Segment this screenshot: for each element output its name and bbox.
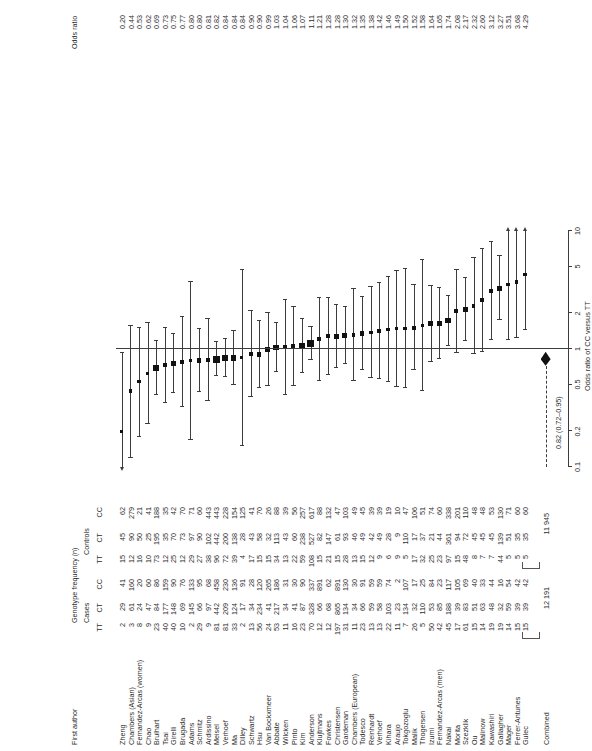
ci-right-cap	[351, 288, 355, 289]
ci-left-cap	[291, 385, 295, 386]
point-estimate-marker	[515, 280, 519, 284]
ci-right-cap	[368, 286, 372, 287]
ci-right-cap	[188, 281, 192, 282]
ci-left-cap	[368, 377, 372, 378]
point-estimate-marker	[129, 389, 132, 392]
total-cases: 12 191	[542, 587, 551, 621]
point-estimate-marker	[317, 337, 321, 341]
ci-left-cap	[334, 367, 338, 368]
ci-left-cap	[480, 351, 484, 352]
x-axis-tick-label: 0.1	[573, 462, 582, 472]
ci-left-cap	[197, 391, 201, 392]
point-estimate-marker	[454, 309, 458, 313]
ci-left-cap	[360, 369, 364, 370]
odds-ratio-value: 4.29	[521, 15, 530, 35]
column-header-cases: Cases	[82, 603, 91, 623]
point-estimate-marker	[222, 355, 228, 361]
ci-right-cap	[120, 352, 124, 353]
ci-right-cap	[197, 328, 201, 329]
point-estimate-marker	[421, 324, 424, 327]
ci-left-cap	[214, 375, 218, 376]
ci-right-arrow	[506, 227, 510, 231]
ci-right-cap	[265, 312, 269, 313]
x-axis-tick-label: 2	[573, 311, 582, 315]
ci-right-cap	[308, 326, 312, 327]
point-estimate-marker	[153, 365, 158, 370]
ci-right-cap	[463, 277, 467, 278]
ci-left-cap	[454, 352, 458, 353]
total-controls: 11 945	[542, 513, 551, 547]
ci-left-cap	[231, 384, 235, 385]
ci-left-cap	[428, 361, 432, 362]
genotype-count: 35	[521, 533, 530, 549]
ci-right-cap	[283, 299, 287, 300]
point-estimate-marker	[231, 355, 236, 360]
ci-left-cap	[188, 439, 192, 440]
point-estimate-marker	[257, 352, 262, 357]
ci-left-cap	[489, 339, 493, 340]
point-estimate-marker	[180, 360, 184, 364]
column-header-cases-tt: TT	[95, 623, 104, 639]
point-estimate-marker	[445, 318, 451, 324]
point-estimate-marker	[206, 358, 210, 362]
ci-left-cap	[300, 372, 304, 373]
ci-left-cap	[317, 380, 321, 381]
ci-left-cap	[240, 445, 244, 446]
point-estimate-marker	[412, 326, 416, 330]
column-header-odds-ratio: Odds ratio	[70, 16, 79, 49]
ci-left-cap	[163, 402, 167, 403]
point-estimate-marker	[377, 329, 381, 333]
x-axis-tick-label: 10	[573, 227, 582, 235]
point-estimate-marker	[197, 358, 202, 363]
x-axis-tick	[568, 230, 572, 231]
point-estimate-marker	[326, 334, 330, 338]
ci-right-cap	[497, 255, 501, 256]
author-label: Gulec	[521, 726, 530, 745]
column-header-author: First author	[70, 709, 79, 745]
ci-left-cap	[326, 374, 330, 375]
ci-left-cap	[446, 345, 450, 346]
x-axis-tick	[568, 384, 572, 385]
ci-left-cap	[411, 369, 415, 370]
ci-right-cap	[317, 297, 321, 298]
column-header-controls: Controls	[82, 528, 91, 555]
genotype-count: 42	[521, 579, 530, 595]
point-estimate-marker	[334, 334, 339, 339]
x-axis-tick-label: 5	[573, 265, 582, 269]
point-estimate-marker	[240, 356, 243, 359]
ci-right-cap	[454, 269, 458, 270]
ci-right-cap	[394, 270, 398, 271]
point-estimate-marker	[369, 331, 373, 335]
ci-right-cap	[205, 318, 209, 319]
x-axis-tick-label: 0.5	[573, 380, 582, 390]
point-estimate-marker	[342, 333, 347, 338]
ci-left-cap	[205, 400, 209, 401]
ci-right-cap	[489, 241, 493, 242]
ci-right-cap	[377, 282, 381, 283]
ci-right-arrow	[523, 227, 527, 231]
ci-right-cap	[274, 322, 278, 323]
point-estimate-marker	[120, 430, 123, 433]
ci-left-cap	[308, 359, 312, 360]
ci-right-cap	[420, 259, 424, 260]
ci-right-cap	[137, 327, 141, 328]
ci-right-cap	[300, 318, 304, 319]
point-estimate-marker	[307, 340, 314, 347]
point-estimate-marker	[137, 380, 141, 384]
ci-left-cap	[497, 319, 501, 320]
column-header-controls-cc: CC	[95, 507, 104, 523]
ci-right-cap	[248, 310, 252, 311]
ci-left-cap	[377, 378, 381, 379]
ci-left-cap	[437, 358, 441, 359]
column-header-controls-tt: TT	[95, 555, 104, 571]
ci-left-cap	[145, 423, 149, 424]
genotype-count: 60	[521, 507, 530, 523]
ci-right-cap	[411, 284, 415, 285]
ci-left-cap	[171, 392, 175, 393]
point-estimate-marker	[403, 327, 406, 330]
point-estimate-marker	[146, 372, 150, 376]
point-estimate-marker	[523, 273, 527, 277]
ci-right-cap	[154, 340, 158, 341]
ci-left-cap	[154, 394, 158, 395]
